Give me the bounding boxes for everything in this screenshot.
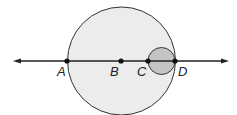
point-c (145, 58, 150, 63)
point-b (118, 58, 123, 63)
label-c: C (137, 64, 147, 79)
arrow-left-icon (13, 59, 21, 64)
label-b: B (110, 64, 119, 79)
point-a (64, 58, 69, 63)
label-a: A (56, 64, 66, 79)
arrow-right-icon (221, 59, 229, 64)
geometry-diagram: A B C D (0, 0, 237, 115)
point-d (172, 58, 177, 63)
label-d: D (178, 64, 187, 79)
